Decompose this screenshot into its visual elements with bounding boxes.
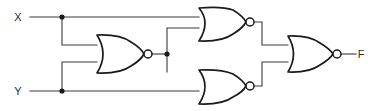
junction-dot-nor-middle-output: [164, 51, 169, 56]
nor-gate-bottom[interactable]: [199, 70, 254, 104]
nor-gate-output-body: [288, 36, 333, 72]
nor-gate-top-inversion-bubble: [246, 18, 254, 26]
nor-gate-top[interactable]: [199, 7, 254, 41]
wire-nor-middle-to-nor-top: [167, 28, 199, 54]
junction-dot-y: [59, 88, 64, 93]
logic-circuit-svg: X Y F: [0, 0, 368, 111]
nor-gate-output-inversion-bubble: [333, 50, 341, 58]
nor-gate-bottom-body: [199, 70, 246, 104]
circuit-diagram-canvas: X Y F: [0, 0, 368, 111]
nor-gate-middle[interactable]: [97, 35, 152, 73]
output-label-f: F: [358, 48, 365, 60]
nor-gate-middle-body: [97, 35, 144, 73]
junction-dot-x: [59, 14, 64, 19]
nor-gate-top-body: [199, 7, 246, 41]
input-label-x: X: [14, 11, 22, 23]
wire-y-to-nor-middle: [62, 62, 97, 91]
nor-gate-output[interactable]: [288, 36, 341, 72]
input-label-y: Y: [14, 85, 22, 97]
wire-x-to-nor-middle: [62, 17, 97, 45]
nor-gate-middle-inversion-bubble: [144, 50, 152, 58]
nor-gate-bottom-inversion-bubble: [246, 82, 254, 90]
